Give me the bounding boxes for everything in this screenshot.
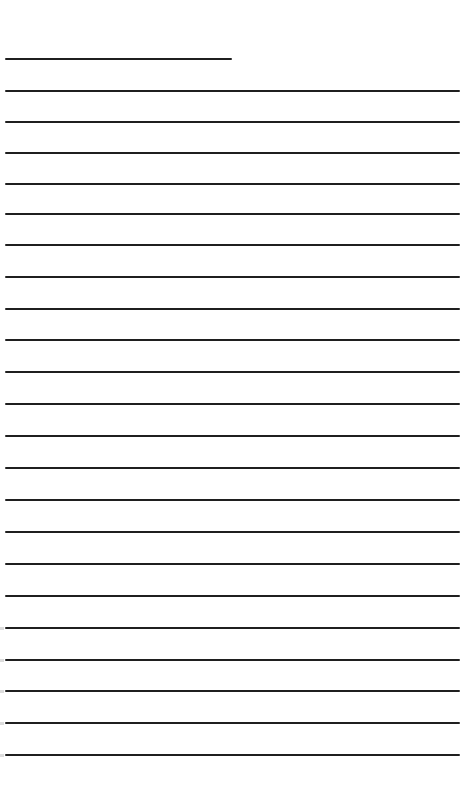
ruled-line <box>5 563 460 565</box>
ruled-line <box>5 722 460 724</box>
ruled-line <box>5 371 460 373</box>
ruled-line <box>5 690 460 692</box>
ruled-line <box>5 627 460 629</box>
margin-scan-mark <box>0 754 4 757</box>
ruled-line <box>5 403 460 405</box>
margin-scan-mark <box>0 722 4 725</box>
lined-paper-page <box>0 0 472 805</box>
ruled-line <box>5 467 460 469</box>
ruled-line <box>5 339 460 341</box>
ruled-line <box>5 308 460 310</box>
ruled-line <box>5 531 460 533</box>
ruled-line <box>5 121 460 123</box>
ruled-line <box>5 659 460 661</box>
ruled-line <box>5 152 460 154</box>
ruled-line <box>5 90 460 92</box>
ruled-line <box>5 435 460 437</box>
ruled-line <box>5 754 460 756</box>
margin-scan-mark <box>0 659 4 662</box>
margin-scan-mark <box>0 627 4 630</box>
ruled-line <box>5 499 460 501</box>
ruled-line <box>5 213 460 215</box>
ruled-line <box>5 244 460 246</box>
margin-scan-mark <box>0 690 4 693</box>
ruled-line <box>5 595 460 597</box>
ruled-line <box>5 276 460 278</box>
header-name-line <box>5 58 232 60</box>
ruled-line <box>5 183 460 185</box>
